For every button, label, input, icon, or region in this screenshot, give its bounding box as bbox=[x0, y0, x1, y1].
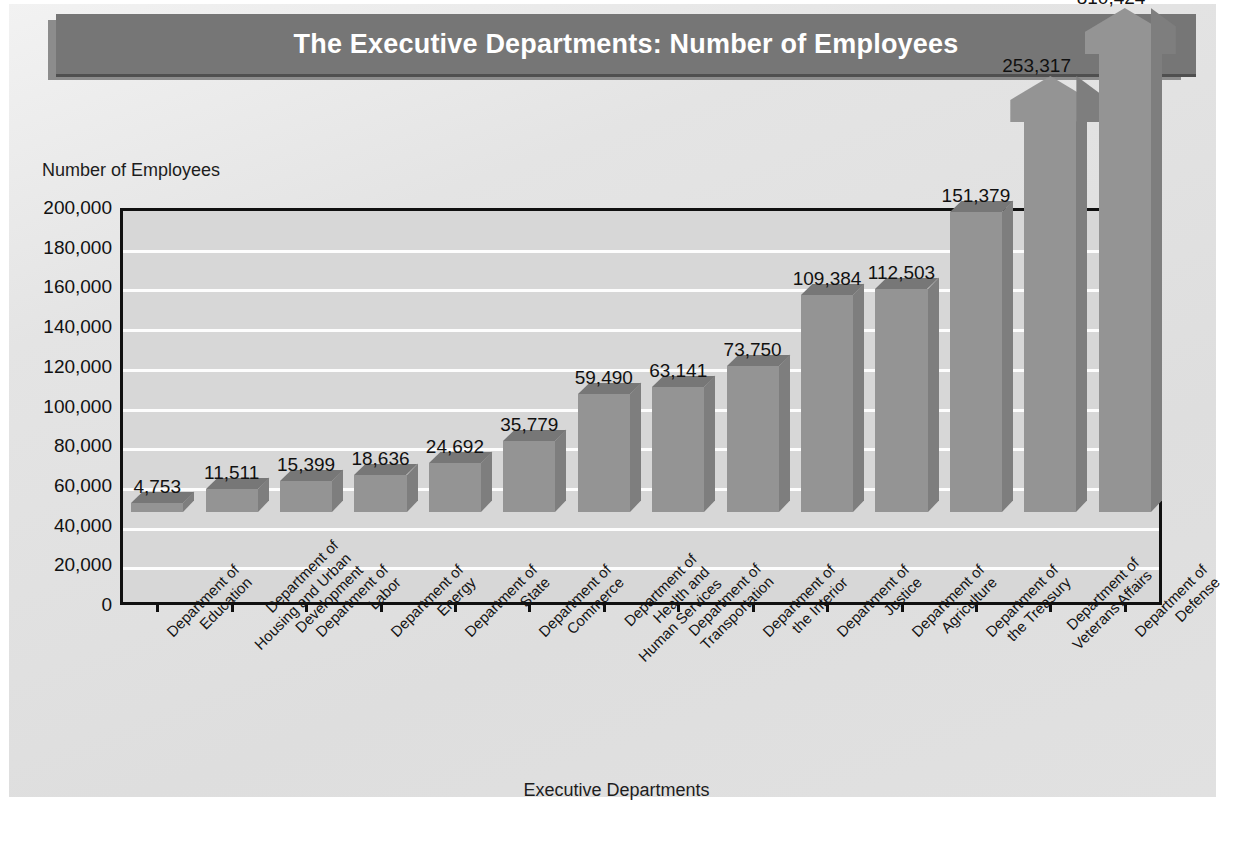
y-axis-tick-label: 140,000 bbox=[2, 316, 112, 338]
bar-front-face bbox=[801, 295, 853, 512]
x-axis-tick-mark bbox=[231, 605, 234, 612]
y-axis-tick-label: 100,000 bbox=[2, 396, 112, 418]
bar-value-label: 73,750 bbox=[724, 339, 782, 361]
bar[interactable]: 112,503 bbox=[875, 289, 927, 512]
y-axis-tick-label: 0 bbox=[2, 594, 112, 616]
bar-front-face bbox=[727, 366, 779, 512]
bar[interactable]: 73,750 bbox=[727, 366, 779, 512]
bar-front-face bbox=[429, 463, 481, 512]
bars-layer: 4,75311,51115,39918,63624,69235,77959,49… bbox=[120, 100, 1162, 620]
x-axis-tick-mark bbox=[305, 605, 308, 612]
x-axis-tick-mark bbox=[454, 605, 457, 612]
bar-front-face bbox=[950, 212, 1002, 512]
bar-value-label: 109,384 bbox=[793, 268, 862, 290]
bar[interactable]: 4,753 bbox=[131, 503, 183, 512]
x-axis-tick-mark bbox=[826, 605, 829, 612]
x-axis-tick-mark bbox=[975, 605, 978, 612]
bar-value-label: 15,399 bbox=[277, 454, 335, 476]
bar-value-label: 59,490 bbox=[575, 367, 633, 389]
bar-side-face bbox=[779, 354, 790, 512]
bar-front-face bbox=[652, 387, 704, 512]
x-axis-tick-labels: Department ofEducationDepartment ofHousi… bbox=[120, 612, 1162, 772]
x-axis-tick-mark bbox=[528, 605, 531, 612]
x-axis-tick-mark bbox=[752, 605, 755, 612]
bar[interactable]: 24,692 bbox=[429, 463, 481, 512]
bar-value-label: 11,511 bbox=[204, 462, 259, 484]
y-axis-tick-label: 80,000 bbox=[2, 435, 112, 457]
bar-side-face bbox=[481, 452, 492, 512]
bar-side-face bbox=[704, 375, 715, 512]
bar-front-face bbox=[131, 503, 183, 512]
bar-value-label: 151,379 bbox=[942, 185, 1011, 207]
bar[interactable]: 151,379 bbox=[950, 212, 1002, 512]
bar-side-face bbox=[928, 277, 939, 512]
bar-side-face bbox=[1151, 43, 1162, 512]
y-axis-tick-label: 180,000 bbox=[2, 237, 112, 259]
bar-side-face bbox=[1076, 111, 1087, 512]
bar-front-face bbox=[354, 475, 406, 512]
y-axis-tick-label: 200,000 bbox=[2, 197, 112, 219]
bar[interactable]: 253,317 bbox=[1024, 122, 1076, 512]
bar-front-face bbox=[875, 289, 927, 512]
bar[interactable]: 109,384 bbox=[801, 295, 853, 512]
bar[interactable]: 59,490 bbox=[578, 394, 630, 512]
bar-value-label: 4,753 bbox=[133, 476, 181, 498]
y-axis-tick-label: 120,000 bbox=[2, 356, 112, 378]
bar[interactable]: 63,141 bbox=[652, 387, 704, 512]
bar-front-face bbox=[280, 481, 332, 512]
x-axis-tick-mark bbox=[901, 605, 904, 612]
bar-front-face bbox=[503, 441, 555, 512]
bar-front-face bbox=[578, 394, 630, 512]
bar-side-face bbox=[853, 283, 864, 512]
y-axis-tick-label: 40,000 bbox=[2, 515, 112, 537]
x-axis-tick-mark bbox=[1049, 605, 1052, 612]
bar-front-face bbox=[1024, 122, 1076, 512]
bar-value-label: 35,779 bbox=[500, 414, 558, 436]
x-axis-title: Executive Departments bbox=[0, 780, 1233, 801]
x-axis-tick-mark bbox=[603, 605, 606, 612]
bar-side-face bbox=[630, 383, 641, 512]
x-axis-tick-mark bbox=[380, 605, 383, 612]
bar-value-label: 253,317 bbox=[1002, 55, 1071, 77]
bar-front-face bbox=[1099, 54, 1151, 512]
bar[interactable]: 15,399 bbox=[280, 481, 332, 512]
chart-page: The Executive Departments: Number of Emp… bbox=[0, 0, 1233, 845]
bar[interactable]: 810,424 bbox=[1099, 54, 1151, 512]
bar-value-label: 112,503 bbox=[868, 262, 935, 284]
bar-value-label: 18,636 bbox=[351, 448, 409, 470]
bar-value-label: 810,424 bbox=[1077, 0, 1146, 9]
x-axis-tick-mark bbox=[156, 605, 159, 612]
bar-side-face bbox=[555, 430, 566, 512]
y-axis-tick-label: 20,000 bbox=[2, 554, 112, 576]
bar[interactable]: 35,779 bbox=[503, 441, 555, 512]
bar-front-face bbox=[206, 489, 258, 512]
y-axis-tick-label: 160,000 bbox=[2, 276, 112, 298]
bar[interactable]: 11,511 bbox=[206, 489, 258, 512]
x-axis-tick-mark bbox=[677, 605, 680, 612]
bar-side-face bbox=[1002, 200, 1013, 512]
x-axis-tick-mark bbox=[1124, 605, 1127, 612]
chart-title: The Executive Departments: Number of Emp… bbox=[294, 29, 959, 60]
bar-value-label: 24,692 bbox=[426, 436, 484, 458]
bar-value-label: 63,141 bbox=[649, 360, 707, 382]
y-axis-tick-label: 60,000 bbox=[2, 475, 112, 497]
bar[interactable]: 18,636 bbox=[354, 475, 406, 512]
y-axis-tick-labels: 200,000180,000160,000140,000120,000100,0… bbox=[0, 208, 112, 605]
